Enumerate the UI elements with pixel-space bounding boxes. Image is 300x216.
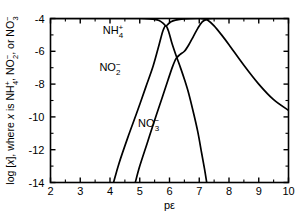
x-tick-label: 6 [166, 185, 172, 197]
series-group [51, 18, 289, 182]
nitrogen-speciation-chart: 2345678910-14-12-10-8-6-4NH+4NO−2NO−3pεl… [0, 0, 300, 216]
series-curve-NO3 [135, 18, 288, 182]
x-axis-title: pε [164, 199, 175, 211]
series-label-NO3: NO−3 [138, 116, 160, 133]
x-tick-label: 3 [77, 185, 83, 197]
y-tick-label: -6 [35, 45, 45, 57]
x-tick-label: 5 [137, 185, 143, 197]
x-tick-label: 9 [256, 185, 262, 197]
chart-canvas: 2345678910-14-12-10-8-6-4NH+4NO−2NO−3pεl… [0, 0, 300, 216]
x-tick-label: 10 [282, 185, 294, 197]
x-tick-label: 2 [47, 185, 53, 197]
y-tick-label: -14 [29, 177, 45, 189]
plot-frame [51, 19, 289, 183]
x-tick-label: 8 [226, 185, 232, 197]
series-label-NO2: NO−2 [99, 60, 121, 77]
y-axis-title: log [x], where x is NH+4, NO−2, or NO−3 [3, 16, 20, 185]
x-tick-label: 7 [196, 185, 202, 197]
y-tick-label: -8 [35, 78, 45, 90]
series-label-NH4: NH+4 [103, 23, 124, 40]
x-tick-label: 4 [107, 185, 113, 197]
y-tick-label: -4 [35, 13, 45, 25]
y-tick-label: -10 [29, 111, 45, 123]
y-tick-label: -12 [29, 144, 45, 156]
